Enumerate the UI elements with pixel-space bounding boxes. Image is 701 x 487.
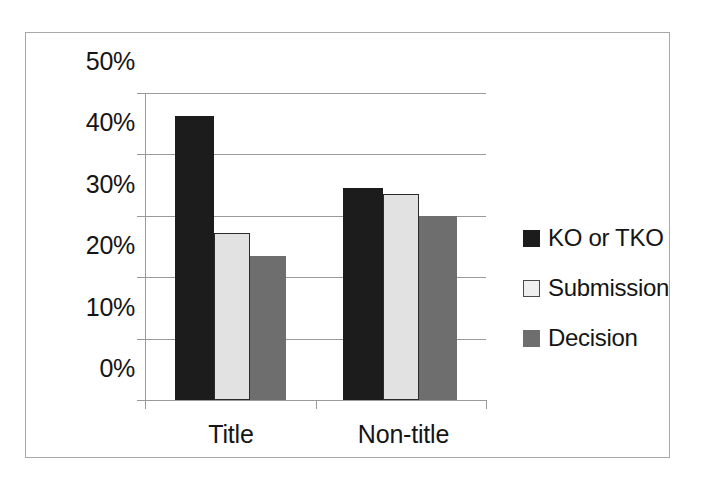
legend-swatch-submission-icon: [523, 280, 540, 297]
legend-item-ko-or-tko: KO or TKO: [523, 213, 688, 263]
legend-item-submission: Submission: [523, 263, 688, 313]
x-axis-tick-right: [486, 400, 487, 409]
y-axis-label-30: 30%: [49, 172, 135, 197]
x-axis-category-title: Title: [171, 420, 291, 448]
x-axis-line: [138, 400, 487, 401]
bar-nontitle-decision: [419, 216, 457, 400]
legend-label-ko-or-tko: KO or TKO: [548, 226, 664, 250]
bar-title-decision: [250, 256, 286, 400]
bar-title-ko-or-tko: [175, 116, 214, 400]
x-axis-category-non-title: Non-title: [331, 420, 476, 448]
legend-item-decision: Decision: [523, 313, 688, 363]
y-axis-label-20: 20%: [49, 233, 135, 258]
x-axis-tick-left: [145, 400, 146, 409]
plot-area: [145, 93, 486, 400]
y-axis-tick-50: [137, 93, 145, 94]
y-axis-tick-40: [137, 154, 145, 155]
legend-label-submission: Submission: [548, 276, 669, 300]
y-axis-tick-10: [137, 339, 145, 340]
legend-label-decision: Decision: [548, 326, 638, 350]
chart-frame: 50% 40% 30% 20% 10% 0%: [25, 32, 670, 458]
y-axis-labels: 50% 40% 30% 20% 10% 0%: [41, 33, 135, 433]
y-axis-label-50: 50%: [49, 49, 135, 74]
gridline-50: [145, 93, 486, 94]
y-axis-tick-20: [137, 277, 145, 278]
bar-nontitle-ko-or-tko: [343, 188, 383, 400]
y-axis-label-0: 0%: [49, 356, 135, 381]
legend-swatch-decision-icon: [523, 330, 540, 347]
x-axis-tick-middle: [316, 400, 317, 409]
bar-nontitle-submission: [383, 194, 419, 400]
y-axis-label-40: 40%: [49, 110, 135, 135]
legend-swatch-ko-or-tko-icon: [523, 230, 540, 247]
y-axis-label-10: 10%: [49, 295, 135, 320]
y-axis-tick-30: [137, 216, 145, 217]
chart-figure: 50% 40% 30% 20% 10% 0%: [0, 0, 701, 487]
bar-title-submission: [214, 233, 250, 400]
chart-legend: KO or TKO Submission Decision: [523, 213, 688, 363]
